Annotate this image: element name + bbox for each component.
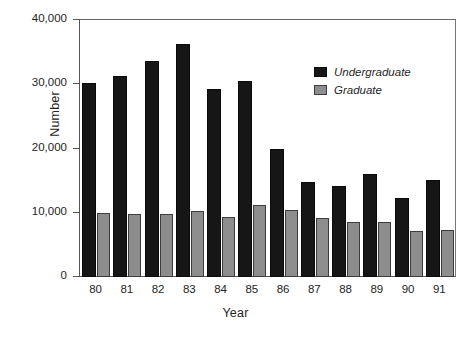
- bar-graduate: [222, 217, 235, 277]
- bar-group: [207, 20, 238, 277]
- x-tick-label: 82: [141, 283, 175, 295]
- x-tick-label: 91: [422, 283, 456, 295]
- bar-graduate: [97, 213, 110, 277]
- bar-graduate: [347, 222, 360, 277]
- bar-group: [301, 20, 332, 277]
- x-tick-label: 85: [235, 283, 269, 295]
- y-tick-label: 30,000: [7, 76, 67, 88]
- x-tick-label: 83: [172, 283, 206, 295]
- bar-undergraduate: [332, 186, 346, 277]
- legend-item: Graduate: [314, 81, 444, 98]
- legend-label: Undergraduate: [334, 66, 411, 78]
- bar-undergraduate: [363, 174, 377, 277]
- bar-group: [82, 20, 113, 277]
- bar-undergraduate: [176, 44, 190, 277]
- x-axis-title: Year: [0, 306, 471, 320]
- bar-graduate: [253, 205, 266, 277]
- bar-graduate: [316, 218, 329, 277]
- bar-undergraduate: [207, 89, 221, 277]
- bar-group: [395, 20, 426, 277]
- bar-graduate: [410, 231, 423, 277]
- x-tick-label: 89: [360, 283, 394, 295]
- bar-graduate: [160, 214, 173, 277]
- legend-item: Undergraduate: [314, 63, 444, 80]
- bar-group: [238, 20, 269, 277]
- x-tick-label: 84: [204, 283, 238, 295]
- bar-graduate: [441, 230, 454, 277]
- legend-label: Graduate: [334, 84, 382, 96]
- bars-container: [80, 20, 455, 277]
- y-tick-mark: [73, 212, 79, 213]
- bar-group: [363, 20, 394, 277]
- bar-group: [145, 20, 176, 277]
- bar-group: [426, 20, 457, 277]
- bar-group: [113, 20, 144, 277]
- x-tick-label: 81: [110, 283, 144, 295]
- x-tick-label: 80: [79, 283, 113, 295]
- bar-graduate: [378, 222, 391, 277]
- bar-group: [176, 20, 207, 277]
- x-tick-label: 88: [329, 283, 363, 295]
- bar-undergraduate: [82, 83, 96, 277]
- bar-undergraduate: [145, 61, 159, 277]
- y-tick-label: 20,000: [7, 141, 67, 153]
- bar-undergraduate: [426, 180, 440, 277]
- y-tick-label: 40,000: [7, 12, 67, 24]
- bar-chart-figure: Number 010,00020,00030,00040,000 8081828…: [0, 0, 471, 337]
- bar-graduate: [128, 214, 141, 277]
- bar-undergraduate: [238, 81, 252, 277]
- bar-undergraduate: [301, 182, 315, 277]
- bar-graduate: [285, 210, 298, 277]
- chart-legend: UndergraduateGraduate: [314, 63, 444, 99]
- bar-undergraduate: [113, 76, 127, 277]
- bar-undergraduate: [270, 149, 284, 277]
- bar-undergraduate: [395, 198, 409, 277]
- x-tick-label: 90: [391, 283, 425, 295]
- bar-graduate: [191, 211, 204, 277]
- y-tick-mark: [73, 276, 79, 277]
- legend-swatch-icon: [314, 67, 327, 77]
- y-tick-mark: [73, 19, 79, 20]
- y-tick-label: 10,000: [7, 205, 67, 217]
- y-tick-label: 0: [7, 269, 67, 281]
- x-tick-label: 87: [297, 283, 331, 295]
- y-tick-mark: [73, 83, 79, 84]
- y-tick-mark: [73, 148, 79, 149]
- legend-swatch-icon: [314, 85, 327, 95]
- bar-group: [332, 20, 363, 277]
- x-tick-label: 86: [266, 283, 300, 295]
- bar-group: [270, 20, 301, 277]
